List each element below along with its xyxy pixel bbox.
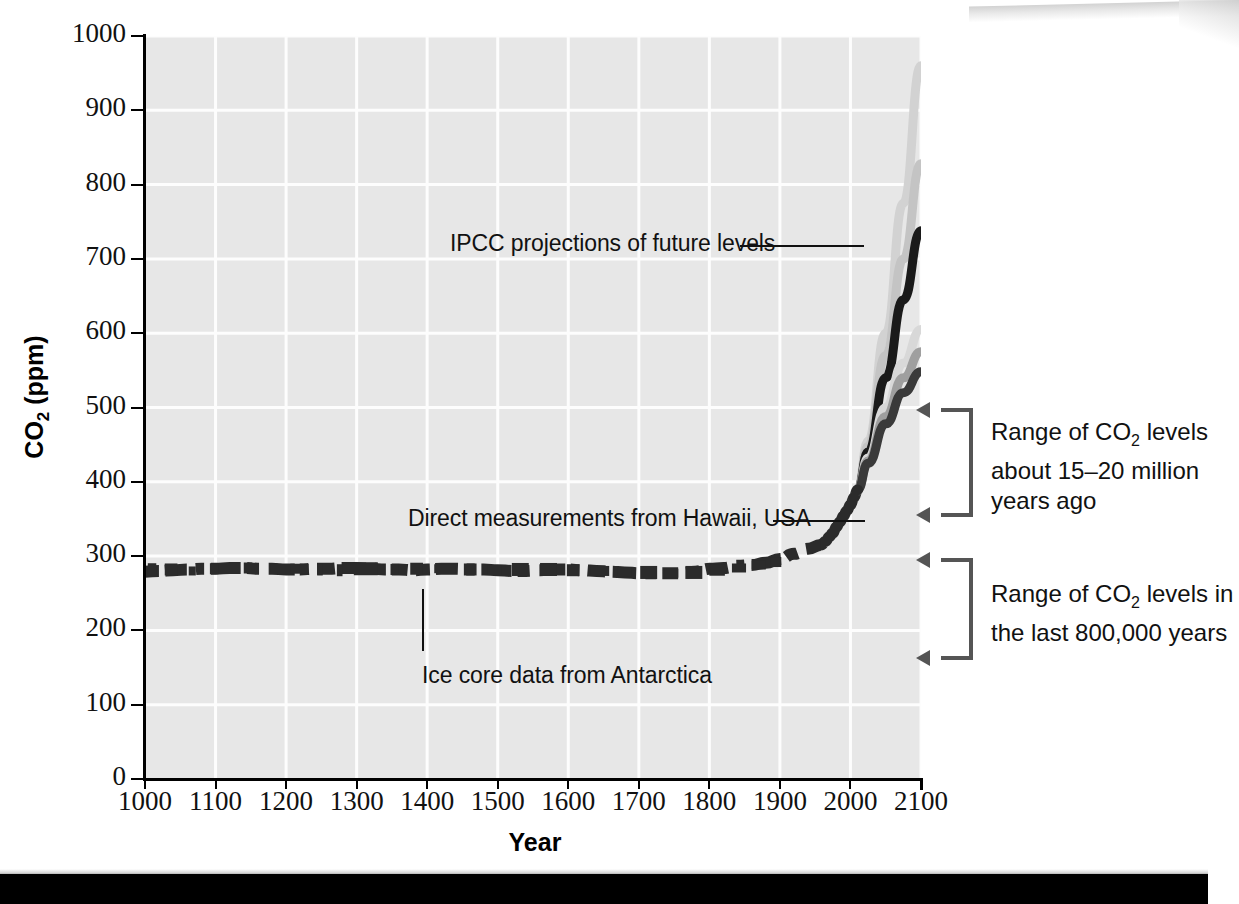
bracket-800k [929, 558, 973, 661]
projection-line [858, 164, 921, 490]
co2-subscript: 2 [1131, 594, 1140, 611]
y-tick-label: 900 [0, 92, 126, 123]
y-tick [131, 704, 145, 706]
icecore-segment [464, 563, 477, 575]
icecore-segment [709, 565, 725, 576]
icecore-segment [244, 562, 252, 573]
bracket-text-line: the last 800,000 years [991, 618, 1239, 648]
y-axis-title-sub: 2 [34, 412, 53, 421]
icecore-segment [434, 564, 455, 573]
annotation-icecore-label: Ice core data from Antarctica [422, 662, 712, 689]
icecore-segment [290, 564, 308, 574]
bracket-miocene-text: Range of CO2 levelsabout 15–20 millionye… [991, 417, 1239, 516]
y-tick [131, 184, 145, 186]
x-axis-title: Year [0, 828, 1070, 857]
annotation-icecore-leader [422, 589, 424, 651]
y-tick [131, 629, 145, 631]
y-tick [131, 109, 145, 111]
annotation-ipcc-leader [740, 245, 864, 247]
bracket-arrow-bot-icon [916, 507, 930, 523]
x-axis-line [143, 778, 923, 781]
y-tick [131, 407, 145, 409]
icecore-segment [732, 563, 746, 572]
annotation-hawaii-leader [773, 520, 865, 522]
bracket-arm-top [941, 408, 973, 412]
bracket-800k-text: Range of CO2 levels inthe last 800,000 y… [991, 579, 1239, 648]
bracket-miocene [929, 408, 973, 518]
bracket-text-line: about 15–20 million [991, 456, 1239, 486]
annotation-ipcc-label: IPCC projections of future levels [450, 230, 775, 257]
icecore-segment [591, 566, 609, 576]
co2-subscript: 2 [1131, 432, 1140, 449]
y-tick [131, 258, 145, 260]
icecore-segment [488, 566, 502, 575]
bottom-black-bar [0, 874, 1208, 904]
bracket-arm-bot [941, 656, 973, 660]
page-corner-artifact [1179, 0, 1239, 48]
y-tick-label: 400 [0, 464, 126, 495]
y-tick [131, 778, 145, 780]
hawaii-series-group [821, 490, 858, 545]
icecore-segment [390, 564, 398, 575]
icecore-segment [148, 563, 156, 574]
icecore-segment [640, 566, 657, 579]
figure-canvas: 01002003004005006007008009001000 1000110… [0, 0, 1239, 904]
bracket-text-line: Range of CO2 levels [991, 417, 1239, 456]
icecore-segment [210, 563, 218, 574]
y-tick [131, 332, 145, 334]
y-tick-label: 800 [0, 167, 126, 198]
icecore-segment [337, 564, 343, 576]
icecore-segment [317, 563, 323, 575]
y-axis-title-suffix: (ppm) [20, 335, 48, 411]
icecore-segment [618, 567, 632, 576]
icecore-segment [271, 563, 278, 572]
page-edge-artifact [969, 0, 1239, 23]
icecore-segment [770, 557, 781, 567]
bracket-stem [969, 558, 973, 661]
annotation-hawaii-label: Direct measurements from Hawaii, USA [408, 505, 811, 532]
y-tick-label: 700 [0, 241, 126, 272]
bracket-arrow-top-icon [916, 552, 930, 568]
icecore-segment [189, 566, 196, 575]
icecore-segment [664, 569, 678, 578]
bracket-stem [969, 408, 973, 518]
projection-series-group [858, 66, 921, 490]
icecore-segment [512, 563, 529, 576]
bracket-arrow-bot-icon [916, 650, 930, 666]
y-axis-title: CO2 (ppm) [20, 297, 54, 497]
y-tick-label: 1000 [0, 18, 126, 49]
y-tick [131, 481, 145, 483]
icecore-segment [540, 563, 557, 576]
bracket-arrow-top-icon [916, 402, 930, 418]
hawaii-line [821, 490, 858, 545]
y-tick-label: 300 [0, 538, 126, 569]
icecore-segment [354, 562, 378, 575]
icecore-series-group [145, 545, 821, 579]
icecore-segment [410, 563, 423, 575]
bracket-arm-top [941, 558, 973, 562]
y-axis-title-prefix: CO [20, 421, 48, 459]
y-tick [131, 35, 145, 37]
icecore-segment [752, 561, 766, 570]
bracket-text-line: years ago [991, 486, 1239, 516]
icecore-segment [685, 566, 702, 579]
y-tick [131, 555, 145, 557]
y-tick-label: 100 [0, 687, 126, 718]
icecore-segment [165, 563, 178, 575]
bracket-text-line: Range of CO2 levels in [991, 579, 1239, 618]
y-tick-label: 600 [0, 315, 126, 346]
y-tick-label: 500 [0, 390, 126, 421]
icecore-segment [567, 564, 580, 576]
x-tick-label: 2100 [871, 786, 971, 817]
bracket-arm-bot [941, 513, 973, 517]
y-tick-label: 200 [0, 612, 126, 643]
